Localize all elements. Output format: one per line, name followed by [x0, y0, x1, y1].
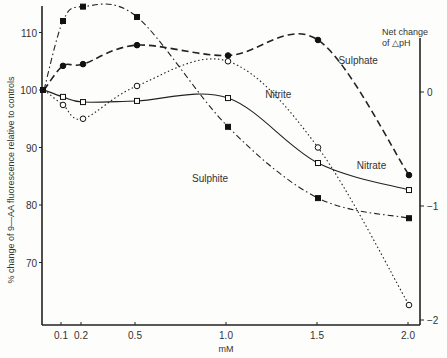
- y2-tick-label: 0: [427, 87, 433, 98]
- data-point-marker: [135, 98, 140, 103]
- data-point-marker: [80, 61, 86, 67]
- y-tick-label: 100: [20, 85, 37, 96]
- data-point-marker: [61, 94, 66, 99]
- series-line: [44, 4, 409, 218]
- x-tick-label: 0.1: [54, 330, 68, 341]
- series-label: Nitrate: [357, 160, 387, 171]
- data-point-marker: [315, 37, 321, 43]
- data-point-marker: [61, 19, 66, 24]
- data-point-marker: [135, 14, 140, 19]
- data-point-marker: [406, 172, 412, 178]
- line-chart: 7080901001100.10.20.51.01.52.00−1−2 mM% …: [0, 0, 447, 358]
- x-tick-label: 0.5: [128, 330, 142, 341]
- data-point-marker: [134, 83, 140, 89]
- data-point-marker: [315, 145, 321, 151]
- data-point-marker: [226, 124, 231, 129]
- x-tick-label: 1.5: [310, 330, 324, 341]
- data-point-marker: [60, 63, 66, 69]
- x-tick-label: 1.0: [219, 330, 233, 341]
- x-tick-label: 2.0: [401, 330, 415, 341]
- data-point-marker: [226, 96, 231, 101]
- chart: 7080901001100.10.20.51.01.52.00−1−2 mM% …: [0, 0, 447, 358]
- data-point-marker: [81, 100, 86, 105]
- y2-axis-title: Net change: [382, 27, 428, 37]
- series-label: Nitrite: [265, 89, 292, 100]
- data-point-marker: [316, 161, 321, 166]
- y2-axis-title: of △pH: [382, 38, 411, 48]
- labels-layer: mM% change of 9—AA fluorescence relative…: [6, 27, 428, 354]
- data-point-marker: [225, 53, 231, 59]
- data-point-marker: [81, 4, 86, 9]
- y-tick-label: 70: [26, 258, 38, 269]
- series-label: Sulphate: [338, 55, 378, 66]
- series-label: Sulphite: [192, 173, 229, 184]
- x-tick-label: 0.2: [74, 330, 88, 341]
- x-axis-title: mM: [219, 344, 234, 354]
- y-axis-title: % change of 9—AA fluorescence relative t…: [6, 76, 16, 284]
- data-point-marker: [80, 116, 86, 122]
- data-point-marker: [134, 42, 140, 48]
- y-tick-label: 110: [21, 28, 37, 39]
- y2-tick-label: −1: [427, 201, 439, 212]
- series-sulphite: [44, 4, 412, 221]
- data-point-marker: [407, 188, 412, 193]
- data-point-marker: [406, 302, 412, 308]
- origin-marker: [40, 87, 46, 93]
- y2-tick-label: −2: [427, 315, 439, 326]
- data-point-marker: [407, 216, 412, 221]
- data-point-marker: [316, 196, 321, 201]
- data-point-marker: [60, 102, 66, 108]
- series-layer: [40, 4, 412, 308]
- data-point-marker: [225, 58, 231, 64]
- y-tick-label: 90: [26, 143, 38, 154]
- y-tick-label: 80: [26, 200, 38, 211]
